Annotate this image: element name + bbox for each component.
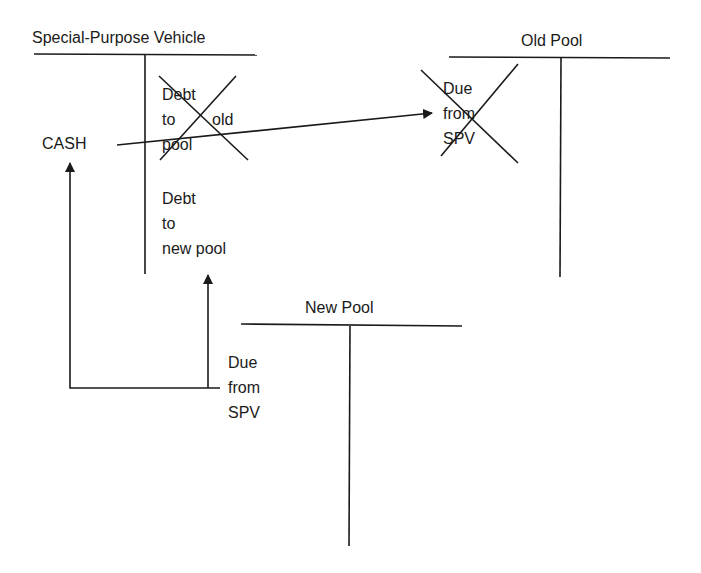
newpool-due-line1: Due <box>228 352 257 373</box>
spv-debt-new-line2: to <box>162 213 175 234</box>
newpool-t-stem <box>349 326 350 546</box>
spv-debt-old-line1: Debt <box>162 84 196 105</box>
spv-title: Special-Purpose Vehicle <box>32 27 205 48</box>
spv-debt-old-line3: old <box>212 109 233 130</box>
oldpool-due-line2: from <box>443 103 475 124</box>
newpool-due-line2: from <box>228 377 260 398</box>
spv-debt-new-line3: new pool <box>162 238 226 259</box>
oldpool-t-top <box>449 57 670 58</box>
spv-debt-new-line1: Debt <box>162 188 196 209</box>
spv-debt-old-line4: pool <box>162 134 192 155</box>
newpool-t-top <box>241 324 462 326</box>
diagram-lines <box>0 0 701 573</box>
newpool-due-line3: SPV <box>228 402 260 423</box>
spv-t-top <box>34 54 257 55</box>
spv-cash-entry: CASH <box>42 133 86 154</box>
newpool-title: New Pool <box>305 297 373 318</box>
oldpool-t-stem <box>560 58 561 277</box>
oldpool-due-line3: SPV <box>443 128 475 149</box>
spv-debt-old-line2: to <box>162 109 175 130</box>
oldpool-due-line1: Due <box>443 78 472 99</box>
oldpool-title: Old Pool <box>521 30 582 51</box>
